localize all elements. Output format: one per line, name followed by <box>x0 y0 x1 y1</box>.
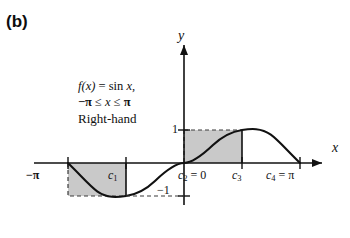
riemann-sum-plot <box>0 0 350 238</box>
x-tick-label-c3: c3 <box>232 168 242 183</box>
x-tick-label-c4: c4 = π <box>266 168 294 183</box>
figure-panel: (b) f(x) = sin x, −π ≤ x ≤ π Right-hand <box>0 0 350 238</box>
x-tick-c2-suffix: = 0 <box>188 168 207 182</box>
x-tick-c4-suffix: = π <box>276 168 295 182</box>
x-tick-c1-sub: 1 <box>113 173 117 183</box>
x-tick-label-neg-pi: −π <box>26 168 39 183</box>
y-tick-label-neg-one: −1 <box>157 183 170 198</box>
x-tick-c3-sub: 3 <box>237 173 241 183</box>
y-axis-label: y <box>178 28 184 44</box>
y-axis-arrowhead <box>180 45 188 55</box>
x-tick-label-c2: c2 = 0 <box>178 168 206 183</box>
x-tick-label-c1: c1 <box>108 168 118 183</box>
x-tick-neg-pi-text: −π <box>26 168 39 182</box>
x-axis-arrowhead <box>312 159 322 167</box>
x-axis-label: x <box>332 140 338 156</box>
y-tick-label-one: 1 <box>172 122 178 137</box>
